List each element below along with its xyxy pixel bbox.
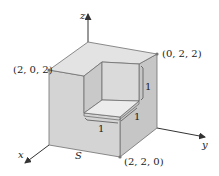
- dim-vertical-label: 1: [145, 82, 151, 92]
- y-axis-label: y: [202, 140, 208, 150]
- point-label-220: (2, 2, 0): [124, 157, 164, 167]
- vertex-220: [118, 155, 121, 158]
- cube-notch-diagram: [0, 0, 219, 176]
- diagram-figure: z x y (2, 0, 2) (0, 2, 2) (2, 2, 0) 1 1 …: [0, 0, 219, 176]
- point-label-202: (2, 0, 2): [13, 65, 53, 75]
- point-label-022: (0, 2, 2): [162, 49, 202, 59]
- y-axis: [157, 128, 205, 137]
- dim-width-label: 1: [98, 124, 104, 134]
- z-axis-label: z: [80, 11, 85, 21]
- vertex-022: [155, 52, 158, 55]
- surface-label: S: [75, 151, 82, 161]
- x-axis: [25, 145, 49, 163]
- dim-depth-label: 1: [134, 112, 140, 122]
- x-axis-label: x: [18, 150, 24, 160]
- notch-right-wall: [102, 62, 139, 101]
